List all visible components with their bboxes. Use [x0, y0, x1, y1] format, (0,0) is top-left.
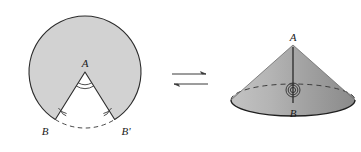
- sector-group: A B B': [29, 16, 141, 137]
- arrow-bottom-head-icon: [174, 84, 180, 86]
- apex-angle-arc-outer: [76, 86, 94, 88]
- cone-label-a: A: [289, 31, 297, 43]
- sector-label-b: B: [42, 125, 49, 137]
- sector-dashed-arc: [55, 120, 114, 129]
- sector-label-bprime: B': [121, 125, 131, 137]
- arrow-top-head-icon: [201, 72, 207, 74]
- cone-label-b: B: [290, 107, 297, 119]
- figure-root: A B B': [0, 0, 361, 152]
- sector-label-a: A: [81, 57, 89, 69]
- apex-angle-arc-inner: [78, 83, 92, 85]
- figure-canvas: A B B': [0, 0, 361, 152]
- equivalence-arrow: [172, 72, 208, 87]
- cone-group: A B: [231, 31, 355, 119]
